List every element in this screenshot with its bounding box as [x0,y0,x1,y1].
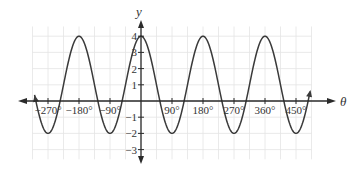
x-tick-label: −90° [99,104,121,116]
x-axis-label: θ [340,94,347,109]
y-tick-label: 4 [132,30,138,42]
cosine-graph: −270°−180°−90°90°180°270°360°450°4321−1−… [0,0,355,171]
x-tick-label: 450° [286,104,307,116]
y-tick-label: −3 [125,144,137,156]
y-tick-label: −1 [125,111,137,123]
x-tick-label: 360° [255,104,276,116]
y-tick-label: 3 [132,46,138,58]
y-tick-label: 2 [132,63,138,75]
x-axis-left-arrow-icon [18,98,27,104]
y-axis-up-arrow-icon [138,20,144,28]
y-axis-down-arrow-icon [138,156,144,164]
x-tick-label: 270° [224,104,245,116]
x-tick-label: 180° [193,104,214,116]
y-tick-label: −2 [125,127,137,139]
grid-lines [33,26,312,159]
tick-labels: −270°−180°−90°90°180°270°360°450°4321−1−… [34,30,306,155]
y-axis-label: y [134,4,142,19]
x-axis-right-arrow-icon [327,98,336,104]
x-tick-label: −270° [34,104,61,116]
x-tick-label: 90° [164,104,179,116]
x-tick-label: −180° [65,104,92,116]
y-tick-label: 1 [132,79,138,91]
